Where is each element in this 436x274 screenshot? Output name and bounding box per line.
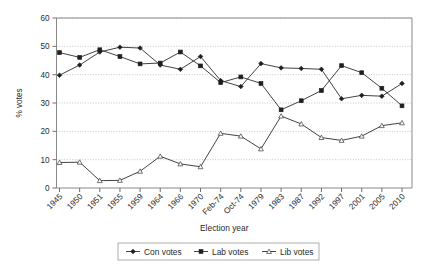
data-point-lab-votes-1	[78, 55, 82, 59]
data-point-lab-votes-13	[320, 89, 324, 93]
chart-canvas: 0102030405060% votes19451950195119551959…	[0, 0, 436, 274]
gridlines	[57, 18, 413, 160]
y-tick-label-10: 10	[40, 156, 50, 165]
series-line-lib-votes	[60, 116, 403, 181]
data-point-lab-votes-3	[118, 55, 122, 59]
data-point-lib-votes-11	[279, 114, 284, 118]
x-tick-label-12: 1987	[287, 192, 307, 212]
data-point-lib-votes-5	[158, 154, 163, 158]
election-votes-line-chart: 0102030405060% votes19451950195119551959…	[0, 0, 436, 274]
series-lib-votes	[57, 114, 404, 183]
data-point-con-votes-0	[57, 73, 62, 78]
chart-legend: Con votesLab votesLib votes	[118, 243, 319, 260]
series-line-lab-votes	[60, 50, 403, 110]
data-point-lab-votes-0	[58, 51, 62, 55]
x-tick-label-3: 1955	[106, 192, 126, 212]
data-point-lab-votes-5	[158, 61, 162, 65]
data-point-lab-votes-8	[219, 81, 223, 85]
x-tick-label-16: 2005	[368, 192, 388, 212]
data-point-lab-votes-legend	[199, 250, 203, 254]
data-point-con-votes-17	[400, 81, 405, 86]
y-tick-label-40: 40	[40, 71, 50, 80]
x-tick-label-8: Feb-74	[201, 192, 226, 217]
data-point-lab-votes-11	[279, 108, 283, 112]
y-axis-title: % votes	[15, 88, 24, 117]
legend-label-0: Con votes	[144, 247, 182, 257]
legend-label-1: Lab votes	[212, 247, 248, 257]
x-tick-label-17: 2010	[388, 192, 408, 212]
data-point-con-votes-1	[77, 63, 82, 68]
data-point-lab-votes-12	[299, 99, 303, 103]
data-point-lab-votes-15	[360, 71, 364, 75]
data-point-con-votes-16	[380, 94, 385, 99]
y-tick-label-0: 0	[45, 184, 50, 193]
series-lab-votes	[58, 48, 404, 112]
x-tick-label-9: Oct-74	[222, 192, 246, 216]
data-point-con-votes-15	[359, 93, 364, 98]
data-point-con-votes-3	[118, 45, 123, 50]
y-tick-label-20: 20	[40, 127, 50, 136]
x-tick-label-14: 1997	[327, 192, 347, 212]
data-point-con-votes-12	[299, 66, 304, 71]
data-point-lab-votes-4	[138, 62, 142, 66]
data-point-lab-votes-9	[239, 75, 243, 79]
y-axis-ticks: 0102030405060	[40, 14, 56, 193]
legend-label-2: Lib votes	[280, 247, 314, 257]
x-axis-title: Election year	[200, 223, 249, 233]
data-point-lab-votes-6	[178, 50, 182, 54]
data-point-lab-votes-10	[259, 82, 263, 86]
x-tick-label-15: 2001	[347, 192, 367, 212]
x-tick-label-13: 1992	[307, 192, 327, 212]
x-tick-label-0: 1945	[45, 192, 65, 212]
y-tick-label-50: 50	[40, 42, 50, 51]
x-tick-label-1: 1950	[65, 192, 85, 212]
x-tick-label-4: 1959	[126, 192, 146, 212]
y-tick-label-60: 60	[40, 14, 50, 23]
x-tick-label-10: 1979	[247, 192, 267, 212]
data-point-lab-votes-16	[380, 86, 384, 90]
data-point-lab-votes-7	[199, 64, 203, 68]
data-point-lib-votes-15	[359, 134, 364, 138]
x-tick-label-2: 1951	[85, 192, 105, 212]
series-line-con-votes	[60, 47, 403, 99]
data-point-lib-votes-10	[259, 147, 264, 151]
x-tick-label-5: 1964	[146, 192, 166, 212]
y-tick-label-30: 30	[40, 99, 50, 108]
data-point-con-votes-11	[279, 66, 284, 71]
data-point-lab-votes-2	[98, 48, 102, 52]
x-tick-label-6: 1966	[166, 192, 186, 212]
data-point-lab-votes-17	[400, 104, 404, 108]
x-tick-label-11: 1983	[267, 192, 287, 212]
data-point-lab-votes-14	[340, 64, 344, 68]
data-point-con-votes-6	[178, 67, 183, 72]
x-axis-ticks: 19451950195119551959196419661970Feb-74Oc…	[45, 188, 407, 217]
